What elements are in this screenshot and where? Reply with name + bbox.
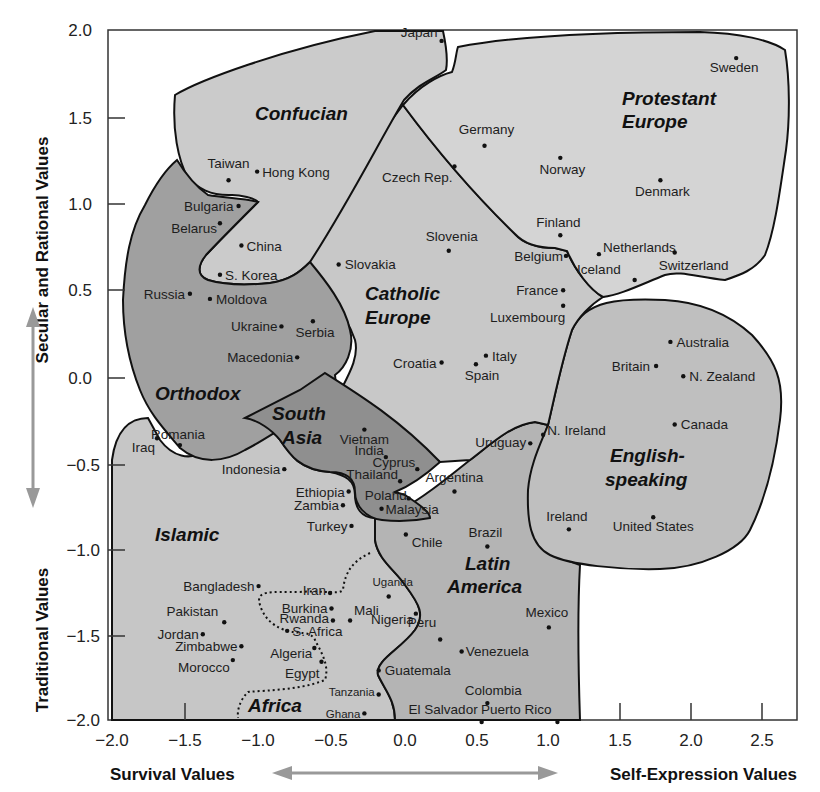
country-label: Norway (539, 162, 585, 177)
y-tick-labels: 2.0 1.5 1.0 0.5 0.0 −0.5 −1.0 −1.5 −2.0 (66, 21, 100, 730)
data-point (387, 594, 391, 598)
data-point (452, 489, 456, 493)
data-point (362, 711, 366, 715)
country-label: Puerto Rico (481, 702, 552, 717)
country-label: Ethiopia (296, 485, 345, 500)
country-label: Sweden (710, 60, 759, 75)
data-point (673, 250, 677, 254)
data-point (439, 360, 443, 364)
data-point (474, 362, 478, 366)
country-label: Canada (681, 417, 729, 432)
data-point (404, 532, 408, 536)
data-point (567, 527, 571, 531)
data-point (349, 524, 353, 528)
data-point (484, 353, 488, 357)
zone-label-english-line1: English- (610, 445, 685, 466)
country-label: Moldova (216, 292, 268, 307)
data-point (295, 355, 299, 359)
zone-label-south-asia-line2: Asia (281, 427, 323, 448)
data-point (348, 618, 352, 622)
data-point (438, 637, 442, 641)
data-point (255, 169, 259, 173)
data-point (208, 297, 212, 301)
country-label: Morocco (178, 660, 230, 675)
country-label: Czech Rep. (382, 170, 453, 185)
country-label: S. Africa (292, 624, 343, 639)
y-tick-label: −2.0 (66, 711, 100, 730)
data-point (341, 503, 345, 507)
y-tick-label: 0.5 (68, 281, 92, 300)
country-label: Colombia (465, 683, 523, 698)
zone-label-orthodox: Orthodox (155, 383, 242, 404)
country-label: Uruguay (475, 435, 526, 450)
data-point (528, 441, 532, 445)
data-point (376, 668, 380, 672)
x-axis-title-right: Self-Expression Values (610, 765, 797, 784)
country-label: Slovakia (345, 257, 397, 272)
country-label: Denmark (635, 184, 690, 199)
data-point (658, 178, 662, 182)
country-label: N. Ireland (547, 423, 606, 438)
data-point (346, 489, 350, 493)
y-axis-title-top: Secular and Rational Values (33, 137, 52, 364)
data-point (201, 632, 205, 636)
x-tick-label: −1.0 (241, 731, 275, 750)
data-point (541, 433, 545, 437)
country-label: Uganda (373, 576, 414, 588)
country-label: Thailand (346, 467, 398, 482)
data-point (558, 233, 562, 237)
cultural-map-chart: 2.0 1.5 1.0 0.5 0.0 −0.5 −1.0 −1.5 −2.0 … (0, 0, 820, 792)
country-label: Ireland (546, 509, 587, 524)
country-label: Malaysia (386, 502, 440, 517)
country-label: Belarus (171, 221, 217, 236)
data-point (311, 319, 315, 323)
country-label: Brazil (468, 525, 502, 540)
data-point (178, 443, 182, 447)
y-tick-label: −1.0 (66, 541, 100, 560)
data-point (407, 496, 411, 500)
data-point (336, 262, 340, 266)
x-tick-label: 2.0 (679, 731, 703, 750)
country-label: Algeria (270, 646, 313, 661)
y-tick-label: 0.0 (68, 369, 92, 388)
data-point (256, 584, 260, 588)
country-label: Venezuela (466, 644, 530, 659)
country-label: Iceland (577, 262, 621, 277)
country-label: Taiwan (208, 156, 250, 171)
country-label: Japan (401, 25, 438, 40)
data-point (222, 620, 226, 624)
country-label: Italy (492, 349, 517, 364)
data-point (668, 340, 672, 344)
data-point (485, 544, 489, 548)
country-label: Pakistan (166, 604, 218, 619)
zone-label-catholic-line1: Catholic (365, 283, 440, 304)
country-label: Bangladesh (183, 579, 254, 594)
data-point (459, 649, 463, 653)
country-label: Slovenia (426, 229, 478, 244)
data-point (482, 144, 486, 148)
data-point (558, 156, 562, 160)
data-point (285, 629, 289, 633)
country-label: Nigeria (371, 612, 414, 627)
zone-label-confucian: Confucian (255, 103, 348, 124)
zone-label-africa: Africa (247, 695, 302, 716)
data-point (218, 273, 222, 277)
y-axis-title-bottom: Traditional Values (33, 568, 52, 713)
data-point (239, 243, 243, 247)
country-label: Indonesia (222, 462, 281, 477)
country-label: Argentina (426, 470, 484, 485)
data-point (479, 720, 483, 724)
zone-label-english-line2: speaking (605, 469, 688, 490)
zone-label-protestant-line2: Europe (622, 111, 688, 132)
country-label: Croatia (393, 356, 437, 371)
y-tick-label: 2.0 (68, 21, 92, 40)
country-label: Zimbabwe (175, 639, 237, 654)
country-label: El Salvador (409, 702, 479, 717)
data-point (681, 374, 685, 378)
data-point (561, 304, 565, 308)
country-label: China (246, 239, 282, 254)
country-label: Macedonia (227, 350, 294, 365)
x-tick-label: −0.5 (314, 731, 348, 750)
country-label: Iran (303, 583, 326, 598)
data-point (673, 422, 677, 426)
